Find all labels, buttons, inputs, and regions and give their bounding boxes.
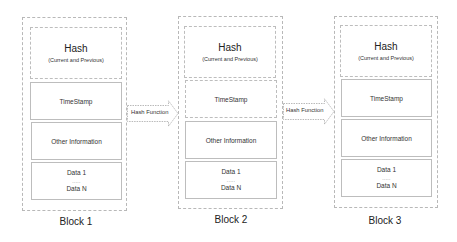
block-2-hash-title: Hash (218, 42, 241, 54)
block-2-data-first: Data 1 (221, 167, 240, 177)
block-3-data-section: Data 1 ..... Data N (341, 159, 432, 197)
arrow-1-label: Hash Function (131, 109, 168, 115)
block-2-other-section: Other Information (185, 121, 277, 159)
block-1-data-last: Data N (66, 184, 86, 194)
block-3-data-last: Data N (376, 181, 396, 191)
block-1-other-label: Other Information (51, 138, 102, 145)
hash-function-arrow-2: Hash Function (283, 98, 335, 125)
block-1-timestamp-section: TimeStamp (30, 82, 122, 120)
block-3-hash-subtitle: (Current and Previous) (358, 54, 414, 62)
block-3-hash-section: Hash (Current and Previous) (340, 25, 432, 77)
block-1-hash-section: Hash (Current and Previous) (30, 27, 122, 79)
block-3-hash-title: Hash (374, 41, 397, 53)
block-2-caption: Block 2 (191, 214, 271, 225)
block-1-data-section: Data 1 ..... Data N (31, 162, 122, 200)
block-3-timestamp-section: TimeStamp (341, 79, 432, 117)
block-2-hash-subtitle: (Current and Previous) (202, 55, 258, 63)
block-1-timestamp-label: TimeStamp (60, 98, 93, 105)
block-3-timestamp-label: TimeStamp (370, 95, 403, 102)
block-2-timestamp-section: TimeStamp (185, 80, 277, 118)
block-2-data-last: Data N (221, 183, 241, 193)
block-1-hash-subtitle: (Current and Previous) (48, 56, 104, 64)
arrow-2-label: Hash Function (286, 107, 323, 113)
block-1-hash-title: Hash (64, 43, 87, 55)
block-3-other-section: Other Information (341, 119, 432, 157)
block-2-timestamp-label: TimeStamp (215, 96, 248, 103)
block-1-caption: Block 1 (36, 216, 116, 227)
block-1-other-section: Other Information (31, 122, 122, 160)
block-1-data-first: Data 1 (67, 168, 86, 178)
block-3-data-first: Data 1 (377, 165, 396, 175)
block-3-caption: Block 3 (345, 215, 425, 226)
block-2-data-section: Data 1 ..... Data N (185, 161, 277, 199)
hash-function-arrow-1: Hash Function (127, 100, 179, 127)
block-3-other-label: Other Information (361, 135, 412, 142)
block-2-hash-section: Hash (Current and Previous) (184, 26, 276, 78)
block-2-other-label: Other Information (206, 137, 257, 144)
